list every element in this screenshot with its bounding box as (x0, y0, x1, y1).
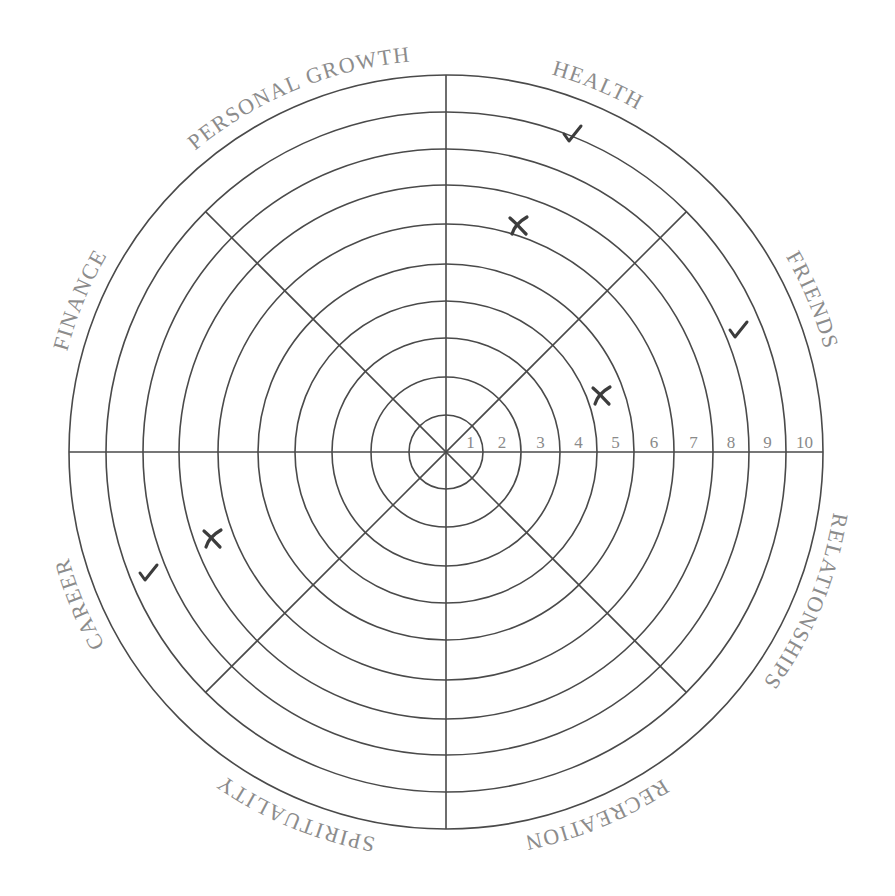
check-mark-icon (140, 565, 157, 580)
ring-number-5: 5 (611, 433, 620, 452)
ring-number-10: 10 (796, 433, 813, 452)
label-spirituality: SPIRITUALITY (211, 770, 376, 857)
ring-number-9: 9 (763, 433, 772, 452)
label-career: CAREER (49, 555, 109, 654)
label-relationships: RELATIONSHIPS (758, 511, 853, 695)
cross-mark-icon (593, 387, 610, 404)
wheel-of-life: 12345678910 HEALTHFRIENDSRELATIONSHIPSRE… (0, 0, 895, 896)
ring-number-7: 7 (689, 433, 698, 452)
spokes (69, 75, 823, 829)
ring-number-8: 8 (727, 433, 736, 452)
ring-number-3: 3 (536, 433, 545, 452)
marks (140, 126, 747, 580)
label-health: HEALTH (550, 55, 648, 115)
ring-number-4: 4 (574, 433, 583, 452)
cross-mark-icon (204, 530, 221, 547)
ring-numbers: 12345678910 (466, 433, 813, 452)
check-mark-icon (730, 322, 747, 337)
ring-number-6: 6 (650, 433, 659, 452)
ring-number-1: 1 (466, 433, 475, 452)
cross-mark-icon (510, 217, 527, 234)
ring-number-2: 2 (498, 433, 507, 452)
label-personal-growth: PERSONAL GROWTH (183, 42, 412, 155)
